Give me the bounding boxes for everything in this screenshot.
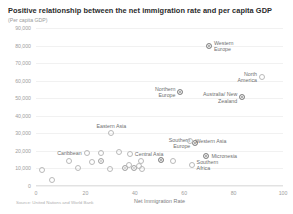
data-point[interactable]	[75, 165, 81, 171]
data-point-label: North America	[238, 71, 257, 83]
data-point[interactable]	[189, 162, 195, 168]
data-point[interactable]	[98, 150, 104, 156]
x-axis-tick: 0	[35, 190, 38, 196]
x-axis-tick: 100	[279, 190, 288, 196]
x-axis-tick: 20	[83, 190, 89, 196]
data-point[interactable]	[107, 166, 113, 172]
x-axis-tick: 40	[132, 190, 138, 196]
y-axis-tick: 80,000	[15, 43, 31, 49]
data-point-label: Southern Africa	[197, 159, 219, 171]
data-point-label: Central Asia	[135, 150, 164, 156]
data-point[interactable]	[170, 158, 176, 164]
data-point[interactable]	[139, 166, 145, 172]
gridline-y	[36, 28, 283, 29]
data-point[interactable]	[187, 138, 193, 144]
gridline-y	[36, 98, 283, 99]
y-axis-tick: 30,000	[15, 130, 31, 136]
data-point[interactable]	[66, 158, 72, 164]
y-axis-tick: 90,000	[15, 25, 31, 31]
data-point-label: Eastern Asia	[96, 123, 126, 129]
data-point[interactable]	[206, 43, 212, 49]
gridline-y	[36, 116, 283, 117]
data-point[interactable]	[127, 151, 133, 157]
x-axis-tick: 80	[231, 190, 237, 196]
data-point-label: Caribbean	[57, 150, 81, 156]
gridline-y	[36, 63, 283, 64]
chart-source: Source: United Nations and World Bank	[16, 200, 94, 205]
data-point-label: Western Asia	[195, 138, 226, 144]
scatter-chart: Positive relationship between the net im…	[0, 0, 293, 214]
data-point[interactable]	[108, 130, 114, 136]
data-point[interactable]	[177, 89, 183, 95]
chart-title: Positive relationship between the net im…	[8, 6, 272, 15]
y-axis-tick: 60,000	[15, 78, 31, 84]
data-point-label: Western Europe	[214, 39, 234, 51]
data-point[interactable]	[239, 94, 245, 100]
data-point[interactable]	[259, 74, 265, 80]
chart-subtitle: (Per capita GDP)	[8, 17, 48, 23]
gridline-y	[36, 186, 283, 187]
gridline-y	[36, 46, 283, 47]
data-point-label: Northern Europe	[155, 86, 176, 98]
x-axis-tick: 60	[181, 190, 187, 196]
y-axis-tick: 10,000	[15, 165, 31, 171]
gridline-y	[36, 133, 283, 134]
data-point-label: Australia/ New Zealand	[203, 91, 237, 103]
data-point[interactable]	[89, 159, 95, 165]
y-axis-tick: 40,000	[15, 113, 31, 119]
data-point[interactable]	[49, 177, 55, 183]
plot-area: Net Immigration Rate 010,00020,00030,000…	[36, 28, 283, 186]
y-axis-tick: 0	[28, 183, 31, 189]
y-axis-tick: 70,000	[15, 60, 31, 66]
data-point[interactable]	[158, 157, 164, 163]
data-point[interactable]	[116, 149, 122, 155]
gridline-y	[36, 168, 283, 169]
data-point[interactable]	[98, 158, 104, 164]
y-axis-tick: 20,000	[15, 148, 31, 154]
data-point[interactable]	[39, 167, 45, 173]
data-point[interactable]	[84, 150, 90, 156]
y-axis-tick: 50,000	[15, 95, 31, 101]
